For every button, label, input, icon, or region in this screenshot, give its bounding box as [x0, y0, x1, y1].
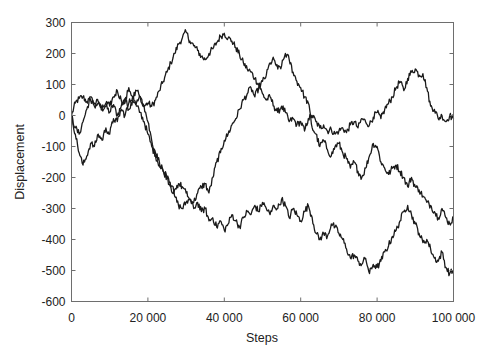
y-tick-label: 300: [45, 16, 65, 30]
x-tick-label: 40 000: [206, 311, 243, 325]
y-tick-label: 0: [59, 109, 66, 123]
x-axis-label: Steps: [246, 331, 278, 345]
plot-frame: [72, 23, 454, 302]
y-tick-label: -200: [41, 171, 65, 185]
x-tick-label: 80 000: [359, 311, 396, 325]
y-tick-label: -100: [41, 140, 65, 154]
x-tick-label: 60 000: [282, 311, 319, 325]
y-tick-label: -300: [41, 202, 65, 216]
x-axis-ticks: 020 00040 00060 00080 000100 000: [68, 23, 475, 325]
y-tick-label: -500: [41, 264, 65, 278]
y-tick-label: 200: [45, 47, 65, 61]
series-line-walk-3: [72, 90, 454, 276]
x-tick-label: 100 000: [432, 311, 476, 325]
x-tick-label: 20 000: [130, 311, 167, 325]
plot-series: [72, 30, 454, 276]
y-tick-label: -600: [41, 295, 65, 309]
series-line-walk-2: [72, 54, 454, 226]
x-tick-label: 0: [68, 311, 75, 325]
random-walk-chart: 020 00040 00060 00080 000100 000 3002001…: [0, 0, 487, 354]
y-axis-label: Displacement: [13, 124, 27, 200]
y-tick-label: -400: [41, 233, 65, 247]
y-axis-ticks: 3002001000-100-200-300-400-500-600: [41, 16, 453, 309]
y-tick-label: 100: [45, 78, 65, 92]
